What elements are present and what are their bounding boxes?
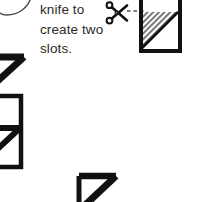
flap-shape-mid-left (0, 96, 21, 167)
hatched-slot-box (141, 0, 180, 51)
curved-guide-arc (0, 0, 30, 15)
flap-shape-upper-left (0, 57, 24, 88)
flap-shape-bottom-center (79, 176, 116, 202)
instruction-text: knife to create two slots. (40, 0, 106, 59)
scissors-icon (104, 1, 130, 27)
diagram-canvas: knife to create two slots. (0, 0, 198, 202)
